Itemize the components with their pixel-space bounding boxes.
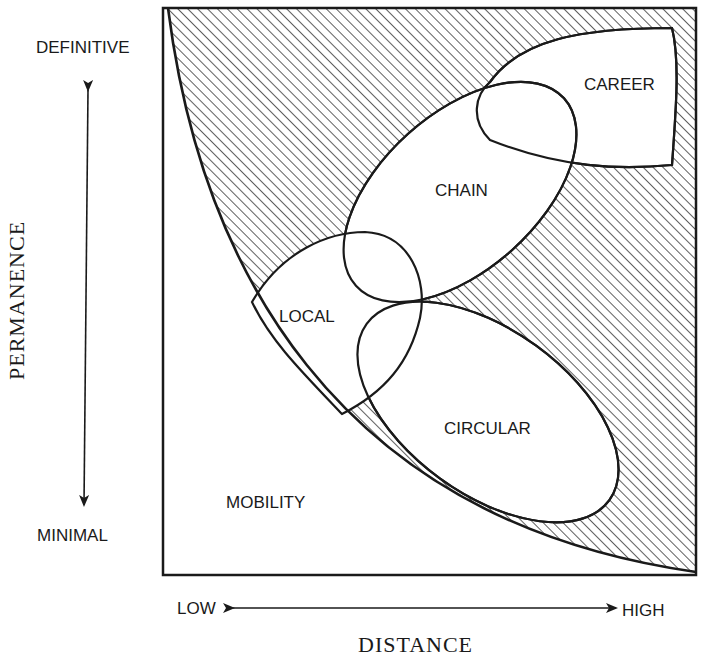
label-circular: CIRCULAR xyxy=(444,419,531,438)
label-career: CAREER xyxy=(584,75,655,94)
label-local: LOCAL xyxy=(279,307,335,326)
x-axis-left-label: LOW xyxy=(177,599,216,618)
y-axis-bottom-label: MINIMAL xyxy=(37,526,108,545)
label-chain: CHAIN xyxy=(435,181,488,200)
x-axis-right-label: HIGH xyxy=(622,601,665,620)
migration-typology-diagram: CAREER CHAIN LOCAL CIRCULAR MOBILITY DEF… xyxy=(0,0,707,659)
label-mobility: MOBILITY xyxy=(226,493,305,512)
y-axis-top-label: DEFINITIVE xyxy=(36,38,130,57)
y-axis-title: PERMANENCE xyxy=(4,221,29,380)
x-axis-title: DISTANCE xyxy=(358,632,473,657)
y-axis-arrow xyxy=(84,90,88,505)
